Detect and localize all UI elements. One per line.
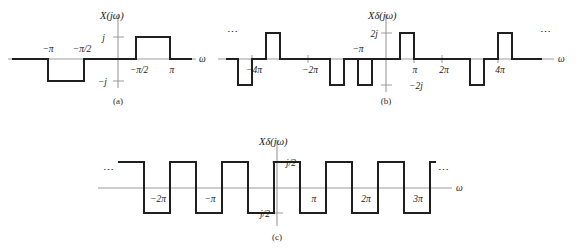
panel-b-ellipsis-left: ⋯ [227, 26, 238, 38]
panel-a-xlabel-neg-pi: −π [42, 44, 53, 54]
panel-c-ylabel-j-half: j/2 [284, 158, 296, 168]
panel-b-xlabel-4pi: 4π [495, 65, 505, 75]
spectrum-figure-svg: X(jω) ω j −j −π −π/2 −π/2 π (a) Xδ(jω) ω… [0, 0, 586, 249]
panel-b-ylabel-neg-2j: −2j [409, 81, 423, 91]
panel-a-title: X(jω) [99, 10, 124, 22]
panel-b-waveform-center-negative-pulse [358, 59, 386, 85]
panel-a-ylabel-neg-j: −j [98, 77, 107, 87]
panel-c-ellipsis-right: ⋯ [438, 164, 449, 176]
panel-c-tag: (c) [272, 232, 282, 242]
panel-c: Xδ(jω) ω j/2 −j/2 −2π −π π 2π 3π ⋯ ⋯ (c) [98, 136, 463, 242]
panel-c-xlabel-2pi: 2π [361, 194, 371, 204]
panel-b: Xδ(jω) ω 2j −2j −4π −2π −π π 2π 4π ⋯ ⋯ (… [218, 10, 565, 106]
panel-b-xlabel-2pi: 2π [439, 65, 449, 75]
panel-c-xlabel-neg-2pi: −2π [150, 194, 166, 204]
panel-b-ellipsis-right: ⋯ [540, 26, 551, 38]
panel-c-axis-label: ω [456, 183, 463, 193]
panel-c-ellipsis-left: ⋯ [103, 164, 114, 176]
panel-c-title: Xδ(jω) [258, 136, 288, 148]
panel-a-ylabel-j: j [100, 33, 105, 43]
panel-c-ylabel-neg-j-half: −j/2 [254, 209, 271, 219]
panel-a-tag: (a) [113, 96, 123, 106]
panel-a-xlabel-pi-half: −π/2 [130, 65, 149, 75]
panel-c-xlabel-neg-pi: −π [204, 194, 215, 204]
figure-container: X(jω) ω j −j −π −π/2 −π/2 π (a) Xδ(jω) ω… [0, 0, 586, 249]
panel-a-xlabel-neg-pi-half: −π/2 [73, 44, 92, 54]
panel-c-xlabel-3pi: 3π [412, 194, 423, 204]
panel-b-xlabel-neg-4pi: −4π [246, 65, 262, 75]
panel-b-xlabel-neg-pi: −π [352, 44, 363, 54]
panel-b-title: Xδ(jω) [367, 10, 397, 22]
panel-c-xlabel-pi: π [312, 194, 317, 204]
panel-a: X(jω) ω j −j −π −π/2 −π/2 π (a) [8, 10, 206, 106]
panel-b-xlabel-pi: π [413, 65, 418, 75]
panel-b-xlabel-neg-2pi: −2π [302, 65, 318, 75]
panel-b-axis-label: ω [558, 54, 565, 64]
panel-a-axis-label: ω [199, 54, 206, 64]
panel-a-xlabel-pi: π [170, 65, 175, 75]
panel-b-ylabel-2j: 2j [371, 29, 379, 39]
panel-b-tag: (b) [381, 96, 392, 106]
